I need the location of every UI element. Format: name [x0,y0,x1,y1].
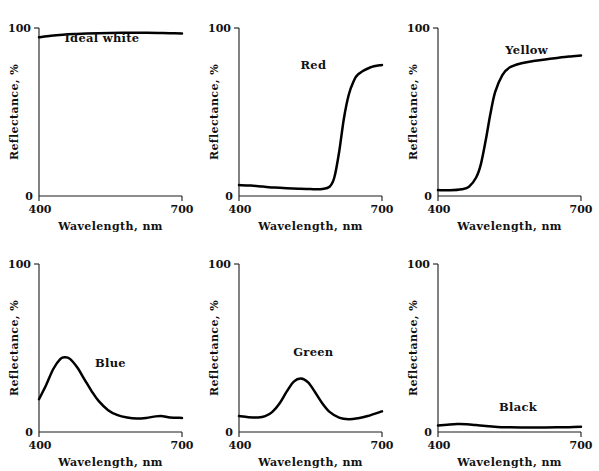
x-tick-label-700: 700 [370,438,393,451]
x-tick-label-400: 400 [428,203,451,216]
panel-yellow: 1000400700Wavelength, nmReflectance, %Ye… [399,0,599,236]
x-tick-label-700: 700 [171,203,194,216]
y-tick-label-100: 100 [8,22,31,35]
y-tick-label-100: 100 [407,22,430,35]
reflectance-curve [239,378,382,419]
series-label: Red [300,58,326,72]
y-axis-title: Reflectance, % [8,299,21,395]
x-tick-label-700: 700 [370,203,393,216]
x-axis-title: Wavelength, nm [456,220,562,233]
series-label: Ideal white [64,31,139,45]
reflectance-curve [239,65,382,189]
y-tick-label-100: 100 [407,258,430,271]
x-tick-label-400: 400 [428,438,451,451]
panel-plot: 1000400700Wavelength, nmReflectance, %Id… [0,0,200,236]
y-axis-title: Reflectance, % [8,64,21,160]
reflectance-curve [438,56,581,191]
panel-ideal-white: 1000400700Wavelength, nmReflectance, %Id… [0,0,200,236]
x-tick-label-700: 700 [570,438,593,451]
x-tick-label-700: 700 [570,203,593,216]
y-axis-title: Reflectance, % [407,299,420,395]
y-axis-title: Reflectance, % [208,299,221,395]
panel-blue: 1000400700Wavelength, nmReflectance, %Bl… [0,236,200,471]
y-tick-label-0: 0 [25,425,33,438]
y-tick-label-0: 0 [425,190,433,203]
y-tick-label-0: 0 [25,190,33,203]
x-axis-title: Wavelength, nm [257,455,363,468]
y-tick-label-100: 100 [208,258,231,271]
x-tick-label-400: 400 [228,438,251,451]
series-label: Yellow [505,43,549,57]
y-tick-label-0: 0 [425,425,433,438]
panel-plot: 1000400700Wavelength, nmReflectance, %Ye… [399,0,599,236]
x-axis-title: Wavelength, nm [57,220,163,233]
y-axis-title: Reflectance, % [208,64,221,160]
x-axis-title: Wavelength, nm [57,455,163,468]
panel-plot: 1000400700Wavelength, nmReflectance, %Bl… [399,236,599,471]
panel-plot: 1000400700Wavelength, nmReflectance, %Re… [200,0,400,236]
x-axis-title: Wavelength, nm [456,455,562,468]
series-label: Green [293,344,334,358]
y-tick-label-100: 100 [8,258,31,271]
panel-plot: 1000400700Wavelength, nmReflectance, %Bl… [0,236,200,471]
y-tick-label-0: 0 [225,425,233,438]
x-tick-label-400: 400 [228,203,251,216]
x-tick-label-700: 700 [171,438,194,451]
reflectance-curve [438,424,581,427]
x-axis-title: Wavelength, nm [257,220,363,233]
y-tick-label-0: 0 [225,190,233,203]
y-axis-title: Reflectance, % [407,64,420,160]
y-tick-label-100: 100 [208,22,231,35]
panel-red: 1000400700Wavelength, nmReflectance, %Re… [200,0,400,236]
panel-green: 1000400700Wavelength, nmReflectance, %Gr… [200,236,400,471]
x-tick-label-400: 400 [29,438,52,451]
panel-black: 1000400700Wavelength, nmReflectance, %Bl… [399,236,599,471]
x-tick-label-400: 400 [29,203,52,216]
series-label: Black [499,399,538,413]
series-label: Blue [95,356,126,370]
panel-plot: 1000400700Wavelength, nmReflectance, %Gr… [200,236,400,471]
reflectance-spectra-figure: 1000400700Wavelength, nmReflectance, %Id… [0,0,599,471]
